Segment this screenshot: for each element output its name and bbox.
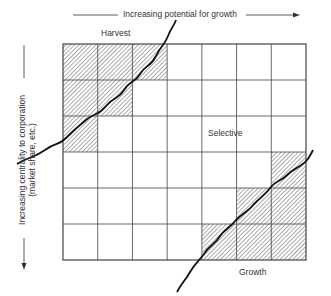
side-axis-label-line1: Increasing centrality to corporation (17, 75, 27, 245)
shaded-cell (202, 224, 237, 260)
harvest-label: Harvest (101, 28, 130, 38)
top-axis-label: Increasing potential for growth (123, 9, 237, 19)
growth-label: Growth (239, 267, 266, 277)
shaded-cell (98, 44, 133, 80)
shaded-cell (132, 44, 167, 80)
matrix-diagram (0, 0, 331, 296)
side-arrow-head (22, 263, 27, 270)
side-axis-label: Increasing centrality to corporation (ma… (17, 75, 37, 245)
shaded-cell (271, 224, 306, 260)
selective-label: Selective (208, 128, 243, 138)
side-axis-label-line2: (market share, etc.) (27, 75, 37, 245)
shaded-cell (271, 188, 306, 224)
shaded-cell (237, 224, 272, 260)
top-arrow-head (293, 13, 300, 18)
shaded-cell (63, 44, 98, 80)
shaded-cell (63, 116, 98, 152)
shaded-cell (63, 80, 98, 116)
